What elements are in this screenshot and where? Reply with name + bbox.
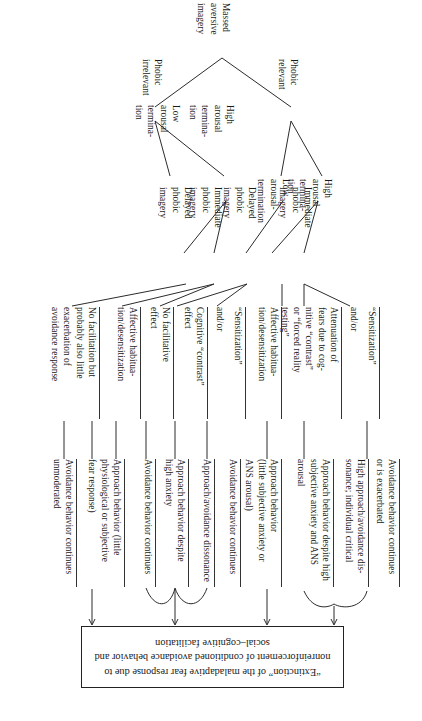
mechanism-2: Attenuation of fears due to cog- nitive … bbox=[279, 307, 340, 419]
mechanism-rule bbox=[99, 307, 100, 419]
outcome-1: High approach/avoidance dis- sonance; in… bbox=[342, 459, 367, 587]
mechanism-rule bbox=[245, 307, 246, 419]
outcome-2: Approach behavior despite high subjectiv… bbox=[295, 459, 332, 587]
outcome-9: Avoidance behavior continues unmoderated bbox=[50, 459, 75, 587]
mechanism-6: Cognitive “contrast” effect bbox=[181, 307, 206, 419]
level3-1: Delayed phobic imagery bbox=[221, 187, 258, 253]
outcome-rule bbox=[281, 459, 282, 587]
outcome-rule bbox=[368, 459, 369, 587]
outcome-6: Approach behavior despite high anxiety bbox=[162, 459, 187, 587]
root-node: Massed aversive imagery bbox=[195, 3, 232, 61]
level2-0: High arousal termina- tion bbox=[285, 179, 334, 269]
mechanism-7: No facilitative effect bbox=[147, 307, 172, 419]
mechanism-rule bbox=[207, 307, 208, 419]
level3-3: Delayed phobic imagery bbox=[157, 187, 194, 253]
outcome-rule bbox=[76, 459, 77, 587]
level2-1: Low arousal- termination bbox=[255, 179, 292, 269]
outcome-3: Approach behavior (little subjective anx… bbox=[243, 459, 280, 587]
outcome-8: Approach behavior (little physiological … bbox=[86, 459, 123, 587]
mechanism-0: “Sensitization” bbox=[366, 307, 378, 419]
outcome-rule bbox=[399, 459, 400, 587]
outcome-rule bbox=[188, 459, 189, 587]
outcome-rule bbox=[214, 459, 215, 587]
mechanism-3: Affective habitua- tion/desensitization bbox=[255, 307, 280, 419]
mechanism-rule bbox=[379, 307, 380, 419]
mechanism-1: and/or bbox=[348, 307, 360, 419]
mechanism-8: Affective habitua- tion/desensitization bbox=[114, 307, 139, 419]
outcome-4: Avoidance behavior continues bbox=[227, 459, 239, 587]
level1-1: Phobic irrelevant bbox=[139, 59, 164, 121]
level1-0: Phobic relevant bbox=[275, 59, 300, 121]
mechanism-5: and/or bbox=[214, 307, 226, 419]
outcome-rule bbox=[333, 459, 334, 587]
outcome-rule bbox=[155, 459, 156, 587]
mechanism-4: “Sensitization” bbox=[232, 307, 244, 419]
outcome-rule bbox=[124, 459, 125, 587]
mechanism-9: No facilitation but probably also little… bbox=[49, 307, 98, 419]
diagram-figure: “Extinction” of the maladaptive fear res… bbox=[0, 0, 422, 721]
mechanism-rule bbox=[281, 307, 282, 419]
mechanism-rule bbox=[140, 307, 141, 419]
diagram-canvas: “Extinction” of the maladaptive fear res… bbox=[0, 0, 422, 721]
outcome-5: Approach/avoidance dissonance bbox=[201, 459, 213, 587]
mechanism-rule bbox=[341, 307, 342, 419]
outcome-7: Avoidance behavior continues bbox=[142, 459, 154, 587]
level2-2: High arousal termina- tion bbox=[187, 105, 236, 187]
outcome-0: Avoidance behavior continues or is exace… bbox=[373, 459, 398, 587]
mechanism-rule bbox=[173, 307, 174, 419]
outcome-rule bbox=[240, 459, 241, 587]
